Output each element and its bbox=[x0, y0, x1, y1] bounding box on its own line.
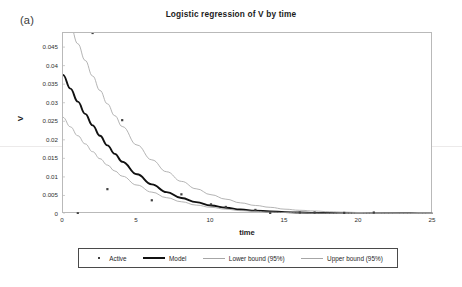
x-tick-label: 5 bbox=[134, 216, 137, 223]
legend-item[interactable]: Lower bound (95%) bbox=[203, 255, 285, 262]
data-point bbox=[373, 211, 375, 213]
y-tick-label: 0.005 bbox=[14, 191, 58, 198]
data-point bbox=[254, 209, 256, 211]
y-tick-label: 0.02 bbox=[14, 135, 58, 142]
legend-thin-line-marker bbox=[203, 258, 225, 259]
legend-item[interactable]: Upper bound (95%) bbox=[301, 255, 383, 262]
data-point bbox=[314, 211, 316, 213]
x-tick-label: 10 bbox=[207, 216, 214, 223]
legend-item[interactable]: Active bbox=[93, 255, 126, 262]
x-axis-tick-labels: 0510152025 bbox=[62, 216, 432, 228]
x-tick-label: 15 bbox=[281, 216, 288, 223]
legend-item-label: Lower bound (95%) bbox=[229, 255, 285, 262]
y-axis-title: V bbox=[16, 116, 25, 121]
legend-dot-marker bbox=[98, 257, 100, 259]
data-point bbox=[269, 212, 271, 214]
data-point bbox=[77, 212, 79, 214]
legend-thin-line-marker bbox=[301, 258, 323, 259]
series-line-lower-bound-95 bbox=[63, 117, 433, 214]
data-point bbox=[92, 33, 94, 34]
y-tick-label: 0.045 bbox=[14, 43, 58, 50]
data-point bbox=[121, 119, 123, 121]
x-tick-label: 20 bbox=[355, 216, 362, 223]
x-tick-label: 0 bbox=[60, 216, 63, 223]
chart-legend: ActiveModelLower bound (95%)Upper bound … bbox=[78, 248, 398, 268]
data-point bbox=[210, 203, 212, 205]
y-tick-label: 0.015 bbox=[14, 154, 58, 161]
y-tick-label: 0.035 bbox=[14, 80, 58, 87]
legend-item-label: Active bbox=[109, 255, 126, 262]
series-line-model bbox=[63, 75, 433, 214]
plot-svg bbox=[63, 33, 433, 214]
data-point bbox=[106, 188, 108, 190]
y-tick-label: 0.03 bbox=[14, 98, 58, 105]
data-point bbox=[180, 193, 182, 195]
data-point bbox=[299, 211, 301, 213]
plot-area bbox=[62, 32, 432, 213]
legend-item[interactable]: Model bbox=[143, 255, 186, 262]
data-point bbox=[151, 199, 153, 201]
chart-page: (a) Logistic regression of V by time 00.… bbox=[0, 0, 462, 287]
x-tick-label: 25 bbox=[429, 216, 436, 223]
data-point bbox=[343, 212, 345, 214]
legend-thick-line-marker bbox=[143, 257, 165, 259]
series-line-upper-bound-95 bbox=[63, 33, 433, 213]
y-axis-tick-labels: 00.0050.010.0150.020.0250.030.0350.040.0… bbox=[10, 32, 58, 213]
series-group bbox=[63, 33, 433, 214]
legend-item-label: Model bbox=[169, 255, 186, 262]
y-tick-label: 0.04 bbox=[14, 61, 58, 68]
y-tick-label: 0.01 bbox=[14, 172, 58, 179]
data-point bbox=[225, 206, 227, 208]
x-axis-title: time bbox=[62, 228, 432, 237]
chart-title: Logistic regression of V by time bbox=[0, 9, 462, 19]
y-tick-label: 0 bbox=[14, 210, 58, 217]
legend-item-label: Upper bound (95%) bbox=[327, 255, 383, 262]
